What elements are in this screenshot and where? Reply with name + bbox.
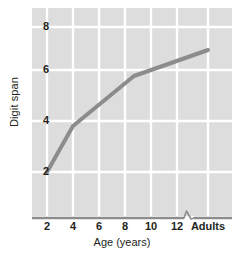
y-tick-label-2: 2 (33, 166, 49, 177)
digit-span-line-chart: 8 6 4 2 2 4 6 8 10 12 Adults Digit span … (0, 0, 236, 258)
plot-background (32, 8, 232, 216)
y-tick-label-8: 8 (33, 21, 49, 32)
y-tick-label-6: 6 (33, 64, 49, 75)
x-tick-label-adults: Adults (185, 221, 231, 232)
y-tick-label-4: 4 (33, 115, 49, 126)
y-axis-title: Digit span (8, 62, 20, 142)
x-axis-title: Age (years) (32, 236, 212, 248)
